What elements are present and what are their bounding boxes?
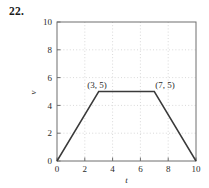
velocity-time-plot: 0 2 4 6 8 10 0 2 4 6 8 10 t v (3, 5) (7,… (0, 0, 209, 188)
xtick-label-4: 4 (110, 164, 115, 174)
xtick-label-2: 2 (83, 164, 88, 174)
annotation-point-3-5: (3, 5) (87, 80, 107, 90)
xtick-label-6: 6 (138, 164, 143, 174)
xtick-label-0: 0 (55, 164, 60, 174)
x-axis-title: t (125, 175, 128, 185)
annotation-point-7-5: (7, 5) (155, 80, 175, 90)
ytick-label-6: 6 (48, 73, 53, 83)
y-axis-title: v (28, 91, 38, 95)
figure-container: 22. (0, 0, 209, 188)
xtick-label-8: 8 (166, 164, 171, 174)
ytick-label-8: 8 (48, 45, 53, 55)
ytick-label-10: 10 (43, 17, 53, 27)
xtick-label-10: 10 (192, 164, 202, 174)
ytick-label-4: 4 (48, 101, 53, 111)
ytick-label-0: 0 (48, 156, 53, 166)
ytick-label-2: 2 (48, 128, 53, 138)
